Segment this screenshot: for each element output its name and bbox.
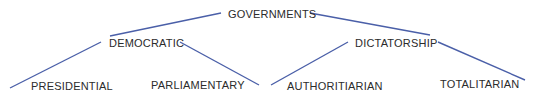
node-presidential: PRESIDENTIAL: [31, 80, 113, 92]
government-types-tree: GOVERNMENTS DEMOCRATIC DICTATORSHIP PRES…: [0, 0, 534, 104]
node-governments: GOVERNMENTS: [228, 8, 316, 20]
node-parliamentary: PARLIAMENTARY: [151, 79, 245, 91]
edge-governments-dictatorship: [310, 13, 430, 35]
node-democratic: DEMOCRATIC: [109, 37, 184, 49]
node-authoritarian: AUTHORITIARIAN: [287, 80, 383, 92]
node-totalitarian: TOTALITARIAN: [440, 78, 519, 90]
edge-dictatorship-totalitarian: [438, 42, 525, 80]
node-dictatorship: DICTATORSHIP: [355, 37, 437, 49]
edge-governments-democratic: [110, 13, 221, 36]
edge-dictatorship-authoritarian: [271, 42, 348, 85]
